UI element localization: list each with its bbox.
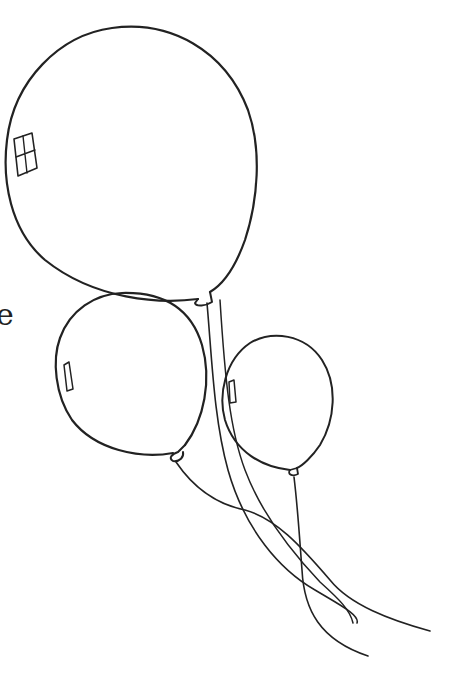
balloon-strings: [176, 300, 430, 656]
small-highlight-icon: [229, 380, 236, 403]
medium-balloon: [56, 293, 207, 461]
small-balloon: [222, 336, 332, 475]
window-highlight-icon: [14, 133, 37, 176]
large-balloon: [6, 27, 257, 306]
medium-highlight-icon: [64, 362, 73, 391]
balloons-drawing: [0, 0, 460, 693]
